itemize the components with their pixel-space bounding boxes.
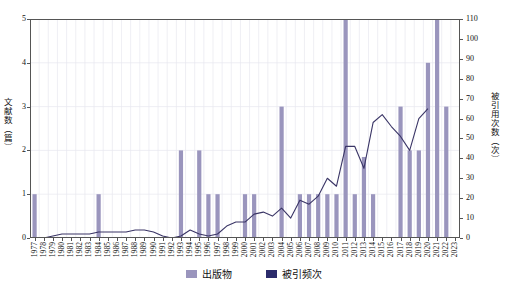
x-tick-label: 1987 (122, 242, 130, 257)
plot-area (30, 19, 460, 238)
legend-swatch-icon (266, 270, 277, 278)
x-tick-label: 2023 (451, 242, 459, 257)
y-tick-right: 0 (466, 234, 484, 242)
y-tick-mark-right (460, 238, 463, 239)
x-tick-label: 2013 (360, 242, 368, 257)
x-tick-label: 1991 (159, 242, 167, 257)
bar (435, 19, 439, 238)
x-tick-label: 1988 (131, 242, 139, 257)
x-tick-mark (382, 238, 383, 241)
x-tick-mark (154, 238, 155, 241)
y-tick-right: 60 (466, 115, 484, 123)
x-tick-label: 1982 (76, 242, 84, 257)
bar (316, 194, 320, 238)
x-tick-mark (254, 238, 255, 241)
y-tick-right: 80 (466, 75, 484, 83)
y-tick-right: 90 (466, 55, 484, 63)
y-tick-mark-right (460, 178, 463, 179)
x-tick-mark (108, 238, 109, 241)
bar (444, 107, 448, 238)
x-tick-label: 2016 (387, 242, 395, 257)
bar (408, 150, 412, 238)
x-tick-label: 1979 (49, 242, 57, 257)
x-tick-label: 1977 (31, 242, 39, 257)
bar (426, 63, 430, 238)
x-tick-mark (455, 238, 456, 241)
x-tick-label: 1994 (186, 242, 194, 257)
bar (279, 107, 283, 238)
x-tick-label: 2014 (369, 242, 377, 257)
x-tick-mark (172, 238, 173, 241)
x-tick-mark (373, 238, 374, 241)
y-tick-right: 110 (466, 15, 484, 23)
x-tick-label: 2005 (287, 242, 295, 257)
x-tick-label: 1981 (67, 242, 75, 257)
y-tick-mark-right (460, 19, 463, 20)
x-tick-label: 1986 (113, 242, 121, 257)
x-tick-mark (291, 238, 292, 241)
y-tick-mark-right (460, 158, 463, 159)
x-tick-label: 2001 (250, 242, 258, 257)
x-tick-label: 2008 (314, 242, 322, 257)
x-tick-label: 1983 (85, 242, 93, 257)
x-tick-mark (346, 238, 347, 241)
x-tick-mark (62, 238, 63, 241)
bar (325, 194, 329, 238)
legend-item[interactable]: 出版物 (186, 266, 232, 281)
x-tick-mark (190, 238, 191, 241)
y-tick-left: 3 (12, 103, 26, 111)
x-tick-mark (163, 238, 164, 241)
chart-container: 文献数（篇） 被引用次数（次） 012345 01020304050607080… (0, 0, 507, 291)
legend-item[interactable]: 被引频次 (266, 266, 322, 281)
y-axis-left-title: 文献数（篇） (2, 98, 11, 152)
x-tick-mark (227, 238, 228, 241)
x-tick-mark (117, 238, 118, 241)
x-tick-label: 1995 (195, 242, 203, 257)
x-tick-mark (428, 238, 429, 241)
x-tick-mark (181, 238, 182, 241)
y-tick-right: 70 (466, 95, 484, 103)
x-tick-mark (263, 238, 264, 241)
x-tick-label: 1978 (40, 242, 48, 257)
x-tick-mark (126, 238, 127, 241)
x-tick-label: 1999 (232, 242, 240, 257)
x-tick-label: 2017 (397, 242, 405, 257)
x-tick-label: 1997 (214, 242, 222, 257)
bar (97, 194, 101, 238)
x-tick-label: 1998 (223, 242, 231, 257)
x-tick-mark (236, 238, 237, 241)
y-tick-mark-right (460, 79, 463, 80)
bar (215, 194, 219, 238)
x-tick-mark (144, 238, 145, 241)
x-tick-mark (337, 238, 338, 241)
x-tick-mark (90, 238, 91, 241)
bar (307, 194, 311, 238)
x-tick-label: 2006 (296, 242, 304, 257)
y-tick-right: 50 (466, 134, 484, 142)
y-axis-right-title: 被引用次数（次） (489, 92, 498, 164)
x-tick-mark (282, 238, 283, 241)
legend-swatch-icon (186, 270, 197, 278)
x-tick-label: 1980 (58, 242, 66, 257)
y-tick-right: 100 (466, 35, 484, 43)
y-tick-right: 20 (466, 194, 484, 202)
x-tick-label: 2002 (259, 242, 267, 257)
x-tick-label: 2019 (415, 242, 423, 257)
y-tick-right: 40 (466, 154, 484, 162)
x-tick-label: 2020 (424, 242, 432, 257)
x-tick-mark (71, 238, 72, 241)
x-tick-mark (327, 238, 328, 241)
x-tick-label: 2009 (323, 242, 331, 257)
bar (32, 194, 36, 238)
y-tick-mark-right (460, 59, 463, 60)
y-tick-mark-left (27, 238, 30, 239)
x-tick-label: 2022 (442, 242, 450, 257)
x-tick-label: 2000 (241, 242, 249, 257)
bar (179, 150, 183, 238)
y-tick-right: 30 (466, 174, 484, 182)
x-tick-label: 2015 (378, 242, 386, 257)
x-tick-label: 2010 (332, 242, 340, 257)
x-tick-mark (364, 238, 365, 241)
x-tick-mark (309, 238, 310, 241)
chart-legend: 出版物被引频次 (0, 266, 507, 281)
